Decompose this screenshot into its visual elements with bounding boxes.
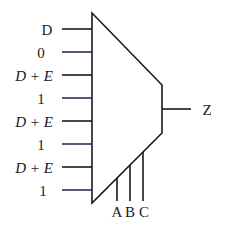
input-label-7: 1 — [39, 183, 47, 199]
input-label-0: D — [42, 22, 53, 38]
select-lines — [117, 152, 143, 201]
mux-body — [92, 13, 162, 203]
input-label-1: 0 — [37, 45, 45, 61]
output-label: Z — [202, 102, 211, 118]
select-label-a: A — [112, 204, 123, 220]
select-label-b: B — [125, 204, 135, 220]
input-label-2: D + E — [14, 68, 53, 84]
input-label-3: 1 — [37, 91, 45, 107]
input-lines — [62, 29, 92, 190]
input-label-4: D + E — [14, 114, 53, 130]
input-label-5: 1 — [37, 137, 45, 153]
mux-diagram: D 0 D + E 1 D + E 1 D + E 1 Z A B C — [0, 0, 237, 231]
select-label-c: C — [139, 204, 149, 220]
input-label-6: D + E — [14, 160, 53, 176]
select-labels: A B C — [112, 204, 149, 220]
input-labels: D 0 D + E 1 D + E 1 D + E 1 — [14, 22, 53, 199]
